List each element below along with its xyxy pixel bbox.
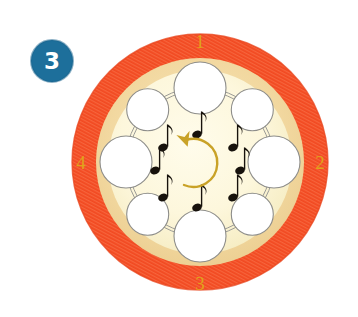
- step-badge-label: 3: [44, 48, 60, 74]
- step-badge: 3: [31, 40, 73, 82]
- beat-number-2: 2: [315, 152, 325, 173]
- beat-circle-1[interactable]: [174, 62, 226, 114]
- beat-number-4: 4: [76, 152, 86, 173]
- beat-number-3: 3: [195, 273, 205, 294]
- rhythm-wheel-figure: 1 2 3 4 3: [0, 0, 358, 317]
- beat-circle-1a[interactable]: [231, 89, 273, 131]
- beat-circle-4[interactable]: [100, 136, 152, 188]
- beat-circle-2[interactable]: [248, 136, 300, 188]
- beat-circle-2a[interactable]: [231, 193, 273, 235]
- beat-circle-4a[interactable]: [127, 89, 169, 131]
- beat-number-1: 1: [195, 31, 205, 52]
- rhythm-wheel-illustration: 1 2 3 4 3: [0, 0, 358, 317]
- beat-circle-3[interactable]: [174, 210, 226, 262]
